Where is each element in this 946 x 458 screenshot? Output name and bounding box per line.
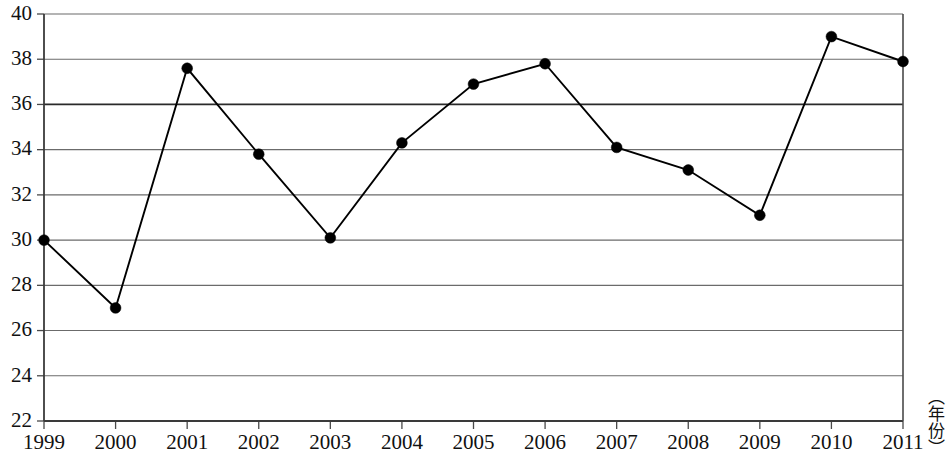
data-point-2003 bbox=[325, 232, 336, 243]
data-point-2008 bbox=[683, 165, 694, 176]
data-point-2001 bbox=[182, 63, 193, 74]
data-point-2007 bbox=[611, 142, 622, 153]
x-axis-label-2000: 2000 bbox=[95, 430, 137, 454]
y-axis-label-30: 30 bbox=[11, 227, 32, 251]
x-axis-label-2001: 2001 bbox=[166, 430, 208, 454]
data-point-2002 bbox=[253, 149, 264, 160]
data-point-2005 bbox=[468, 79, 479, 90]
x-axis-label-2008: 2008 bbox=[667, 430, 709, 454]
data-point-2010 bbox=[826, 31, 837, 42]
data-point-2011 bbox=[898, 56, 909, 67]
y-axis-label-34: 34 bbox=[11, 136, 33, 160]
data-point-2000 bbox=[110, 303, 121, 314]
x-axis-label-2006: 2006 bbox=[524, 430, 566, 454]
x-axis-label-2005: 2005 bbox=[453, 430, 495, 454]
chart-background bbox=[0, 0, 946, 458]
x-axis-label-2009: 2009 bbox=[739, 430, 781, 454]
x-axis-label-2004: 2004 bbox=[381, 430, 424, 454]
x-axis-caption: （年份） bbox=[914, 388, 944, 456]
y-axis-label-24: 24 bbox=[11, 363, 33, 387]
y-axis-label-38: 38 bbox=[11, 46, 32, 70]
x-axis-label-2002: 2002 bbox=[238, 430, 280, 454]
y-axis-label-26: 26 bbox=[11, 317, 32, 341]
x-axis-label-2003: 2003 bbox=[309, 430, 351, 454]
data-point-1999 bbox=[39, 235, 50, 246]
x-axis-label-2007: 2007 bbox=[596, 430, 638, 454]
y-axis-label-28: 28 bbox=[11, 272, 32, 296]
data-point-2009 bbox=[754, 210, 765, 221]
y-axis-label-40: 40 bbox=[11, 1, 32, 25]
y-axis-label-36: 36 bbox=[11, 91, 32, 115]
x-axis-label-2010: 2010 bbox=[810, 430, 852, 454]
data-point-2006 bbox=[540, 58, 551, 69]
data-point-2004 bbox=[397, 137, 408, 148]
x-axis-label-1999: 1999 bbox=[23, 430, 65, 454]
y-axis-label-32: 32 bbox=[11, 182, 32, 206]
chart-canvas: 22242628303234363840 1999200020012002200… bbox=[0, 0, 946, 458]
line-chart: 22242628303234363840 1999200020012002200… bbox=[0, 0, 946, 458]
y-axis-label-22: 22 bbox=[11, 408, 32, 432]
